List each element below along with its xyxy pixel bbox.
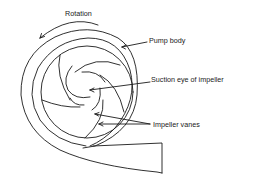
- impeller-vanes-leader: [95, 113, 150, 127]
- pump-diagram: [0, 0, 257, 184]
- suction-eye-label: Suction eye of impeller: [151, 76, 224, 83]
- impeller-vanes-label: Impeller vanes: [153, 121, 200, 128]
- pump-body-leader: [122, 42, 147, 49]
- impeller-vanes: [42, 55, 124, 138]
- pump-body-label: Pump body: [149, 37, 185, 44]
- rotation-label: Rotation: [65, 10, 92, 17]
- suction-eye-leader: [90, 82, 150, 92]
